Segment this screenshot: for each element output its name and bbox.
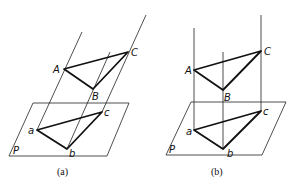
label-B: B [224,92,231,103]
label-B: B [92,91,99,102]
projector-C-c [102,15,146,112]
figure-b: A C B a b c P (b) [166,15,286,178]
label-a: a [28,125,34,136]
label-C: C [131,47,138,58]
label-P: P [169,144,176,155]
triangle-ABC-b [194,51,261,90]
label-c: c [104,107,110,118]
label-C: C [264,46,271,57]
label-b: b [69,148,75,159]
caption-b: (b) [211,166,223,178]
triangle-abc-b [194,111,261,149]
projector-A-a [37,32,82,130]
caption-a: (a) [57,166,68,178]
label-b: b [227,148,233,159]
figure-a: A C B a b c P (a) [9,15,146,178]
label-a: a [186,126,192,137]
label-P: P [13,145,20,156]
label-A: A [184,65,192,76]
projection-diagram: A C B a b c P (a) A C B a b c P (b) [0,0,295,183]
label-A: A [52,64,60,75]
label-c: c [263,106,269,117]
